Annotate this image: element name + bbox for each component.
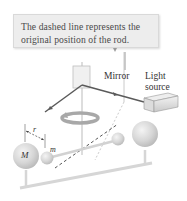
- light-source-label-line-1: Light: [145, 71, 170, 82]
- original-rod-position-dashed: [55, 124, 118, 168]
- cavendish-apparatus-diagram: [0, 0, 187, 201]
- large-mass-right: [132, 121, 158, 147]
- small-mass-right: [112, 133, 125, 146]
- reflected-beam-dashed: [95, 102, 124, 160]
- large-mass-label: M: [21, 150, 29, 160]
- callout-pointer-icon: [113, 48, 117, 52]
- torsion-rod: [48, 140, 118, 158]
- mirror-label: Mirror: [104, 71, 129, 81]
- light-source-icon: [144, 93, 178, 112]
- light-source-label: Light source: [145, 71, 170, 93]
- incident-light-beam: [82, 85, 144, 102]
- base-rod: [20, 163, 152, 188]
- light-source-label-line-2: source: [145, 82, 170, 93]
- rotation-arrow-icon: [62, 113, 98, 123]
- distance-label: r: [33, 125, 36, 134]
- small-mass-label: m: [50, 145, 56, 154]
